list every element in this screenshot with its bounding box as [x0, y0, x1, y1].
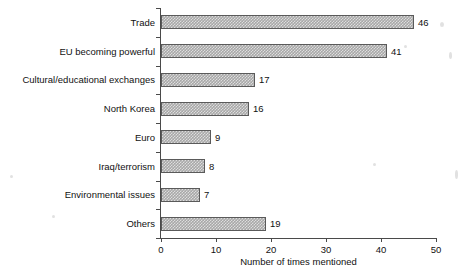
- scan-speck: [440, 22, 444, 27]
- bar-value-label: 46: [418, 17, 429, 28]
- x-axis-tick: [381, 238, 382, 242]
- scan-speck: [373, 163, 376, 166]
- y-axis-tick: [156, 37, 161, 38]
- bar: [161, 102, 249, 116]
- scan-speck: [455, 170, 458, 179]
- bar: [161, 15, 414, 29]
- x-axis-tick: [326, 238, 327, 242]
- category-label: Others: [0, 218, 155, 229]
- bar-value-label: 41: [391, 46, 402, 57]
- bar: [161, 44, 387, 58]
- category-label: Euro: [0, 132, 155, 143]
- x-axis-tick-label: 40: [366, 244, 396, 255]
- x-axis-tick: [161, 238, 162, 242]
- y-axis-tick: [156, 152, 161, 153]
- y-axis-tick: [156, 123, 161, 124]
- x-axis-title: Number of times mentioned: [161, 256, 436, 267]
- bar-value-label: 7: [204, 189, 209, 200]
- scan-speck: [449, 52, 452, 59]
- x-axis-tick-label: 30: [311, 244, 341, 255]
- category-label: North Korea: [0, 103, 155, 114]
- bar: [161, 130, 211, 144]
- category-label: Environmental issues: [0, 189, 155, 200]
- scan-speck: [404, 45, 407, 48]
- scan-speck: [10, 175, 13, 178]
- bar: [161, 217, 266, 231]
- scan-speck: [52, 215, 55, 218]
- y-axis-tick: [156, 94, 161, 95]
- x-axis-tick-label: 50: [421, 244, 451, 255]
- bar-value-label: 16: [253, 103, 264, 114]
- x-axis-tick: [436, 238, 437, 242]
- y-axis-tick: [156, 209, 161, 210]
- category-label: Trade: [0, 17, 155, 28]
- bar: [161, 73, 255, 87]
- y-axis-tick: [156, 181, 161, 182]
- category-label: EU becoming powerful: [0, 46, 155, 57]
- bar: [161, 159, 205, 173]
- bar-value-label: 17: [259, 74, 270, 85]
- category-label: Iraq/terrorism: [0, 161, 155, 172]
- bar-value-label: 19: [270, 218, 281, 229]
- x-axis-tick: [271, 238, 272, 242]
- x-axis-tick: [216, 238, 217, 242]
- x-axis-line: [160, 238, 437, 239]
- bar-chart: Trade46EU becoming powerful41Cultural/ed…: [0, 0, 459, 277]
- x-axis-tick-label: 20: [256, 244, 286, 255]
- bar: [161, 188, 200, 202]
- y-axis-tick: [156, 8, 161, 9]
- bar-value-label: 9: [215, 132, 220, 143]
- bar-value-label: 8: [209, 161, 214, 172]
- y-axis-tick: [156, 66, 161, 67]
- category-label: Cultural/educational exchanges: [0, 74, 155, 85]
- x-axis-tick-label: 10: [201, 244, 231, 255]
- x-axis-tick-label: 0: [146, 244, 176, 255]
